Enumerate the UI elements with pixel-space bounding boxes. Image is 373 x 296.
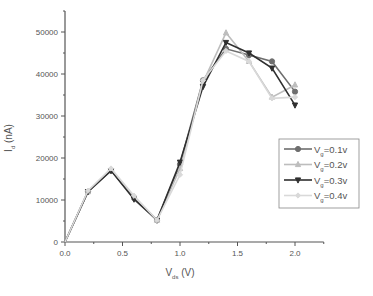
y-tick-label: 0 [54, 238, 59, 247]
series-line [65, 33, 295, 242]
y-tick-label: 30000 [36, 112, 59, 121]
triangle-down-marker [292, 103, 297, 108]
circle-marker [295, 146, 300, 151]
diamond-marker [292, 95, 297, 100]
chart: 010000200003000040000500000.00.51.01.52.… [0, 0, 373, 296]
series-vg-0-4v [65, 48, 298, 242]
y-axis-title: Id (nA) [3, 124, 16, 152]
series-group [65, 30, 298, 242]
series-vg-0-3v [65, 40, 298, 242]
x-tick-label: 0.0 [59, 249, 71, 258]
x-tick-label: 1.0 [174, 249, 186, 258]
x-tick-label: 0.5 [117, 249, 129, 258]
y-tick-label: 50000 [36, 28, 59, 37]
y-tick-label: 20000 [36, 154, 59, 163]
x-tick-label: 1.5 [232, 249, 244, 258]
circle-marker [292, 89, 297, 94]
axes: 010000200003000040000500000.00.51.01.52.… [36, 11, 324, 258]
triangle-up-marker [223, 30, 228, 35]
x-axis-title: Vds (V) [165, 267, 194, 280]
y-tick-label: 40000 [36, 70, 59, 79]
circle-marker [269, 59, 274, 64]
triangle-up-marker [292, 82, 297, 87]
series-vg-0-1v [65, 46, 298, 242]
legend: Vg=0.1vVg=0.2vVg=0.3vVg=0.4v [279, 139, 359, 208]
series-line [65, 51, 295, 242]
series-line [65, 43, 295, 243]
x-tick-label: 2.0 [289, 249, 301, 258]
y-tick-label: 10000 [36, 196, 59, 205]
